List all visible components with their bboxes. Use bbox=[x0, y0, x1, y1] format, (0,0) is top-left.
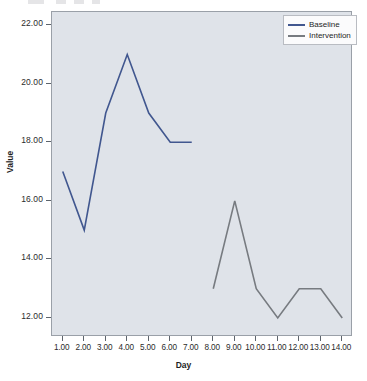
plot-area bbox=[51, 11, 352, 336]
series-line-intervention bbox=[213, 201, 342, 318]
y-tick-label: 16.00 bbox=[21, 194, 43, 204]
x-tick-mark bbox=[169, 336, 170, 341]
x-tick-label: 14.00 bbox=[331, 343, 351, 352]
legend-swatch-baseline bbox=[288, 24, 305, 26]
legend-swatch-intervention bbox=[288, 35, 305, 37]
x-tick-label: 9.00 bbox=[226, 343, 242, 352]
y-tick-label: 14.00 bbox=[21, 252, 43, 262]
legend-label-intervention: Intervention bbox=[309, 30, 351, 41]
series-line-baseline bbox=[63, 54, 192, 230]
x-axis-title: Day bbox=[0, 360, 367, 370]
y-tick-mark bbox=[46, 83, 51, 84]
x-tick-mark bbox=[341, 336, 342, 341]
x-tick-label: 6.00 bbox=[161, 343, 177, 352]
y-axis-title: Value bbox=[5, 151, 15, 173]
x-tick-label: 11.00 bbox=[267, 343, 286, 352]
x-tick-mark bbox=[277, 336, 278, 341]
y-tick-label: 22.00 bbox=[21, 18, 43, 28]
y-tick-mark bbox=[46, 200, 51, 201]
y-tick-mark bbox=[46, 258, 51, 259]
x-tick-mark bbox=[148, 336, 149, 341]
x-tick-mark bbox=[298, 336, 299, 341]
y-tick-mark bbox=[46, 24, 51, 25]
x-tick-label: 8.00 bbox=[204, 343, 220, 352]
legend-item-baseline[interactable]: Baseline bbox=[288, 19, 351, 30]
line-chart: 12.0014.0016.0018.0020.0022.00 1.002.003… bbox=[0, 0, 367, 381]
x-tick-label: 12.00 bbox=[288, 343, 308, 352]
x-tick-label: 13.00 bbox=[310, 343, 330, 352]
x-tick-mark bbox=[255, 336, 256, 341]
y-tick-label: 12.00 bbox=[21, 311, 43, 321]
x-tick-label: 5.00 bbox=[140, 343, 156, 352]
y-tick-label: 20.00 bbox=[21, 77, 43, 87]
legend-label-baseline: Baseline bbox=[309, 19, 340, 30]
x-tick-label: 7.00 bbox=[183, 343, 199, 352]
y-tick-label: 18.00 bbox=[21, 135, 43, 145]
x-tick-label: 4.00 bbox=[118, 343, 134, 352]
x-tick-mark bbox=[212, 336, 213, 341]
legend-item-intervention[interactable]: Intervention bbox=[288, 30, 351, 41]
x-tick-mark bbox=[83, 336, 84, 341]
x-tick-label: 1.00 bbox=[54, 343, 70, 352]
x-tick-mark bbox=[105, 336, 106, 341]
x-tick-label: 2.00 bbox=[75, 343, 91, 352]
x-tick-mark bbox=[62, 336, 63, 341]
x-tick-mark bbox=[191, 336, 192, 341]
y-tick-mark bbox=[46, 141, 51, 142]
x-tick-label: 10.00 bbox=[245, 343, 265, 352]
y-tick-mark bbox=[46, 317, 51, 318]
plot-svg bbox=[52, 12, 353, 337]
x-tick-mark bbox=[320, 336, 321, 341]
chart-legend: Baseline Intervention bbox=[283, 15, 357, 45]
x-tick-mark bbox=[234, 336, 235, 341]
x-tick-mark bbox=[126, 336, 127, 341]
x-tick-label: 3.00 bbox=[97, 343, 113, 352]
